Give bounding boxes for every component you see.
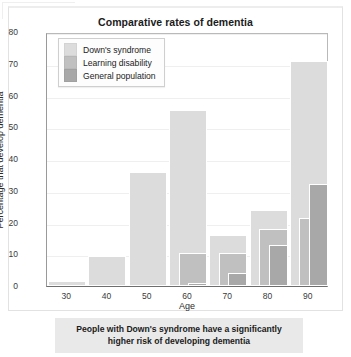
chart-caption: People with Down's syndrome have a signi… (55, 318, 303, 353)
x-axis-tick-label: 90 (288, 291, 328, 301)
y-axis-tick-label: 80 (0, 27, 18, 37)
chart-title: Comparative rates of dementia (0, 16, 351, 28)
legend-swatch-icon (64, 43, 77, 56)
legend-swatch-icon (64, 69, 77, 82)
bar (269, 245, 288, 286)
legend-item-0: Down's syndrome (64, 43, 156, 56)
bar (88, 256, 126, 286)
y-axis-tick-label: 70 (0, 59, 18, 69)
bar (309, 184, 328, 286)
x-axis-tick-label: 30 (46, 291, 86, 301)
x-axis-tick-label: 40 (86, 291, 126, 301)
legend-item-1: Learning disability (64, 56, 156, 69)
legend-label: Down's syndrome (83, 45, 151, 55)
figure-container: Comparative rates of dementia Percentage… (0, 0, 351, 357)
legend-label: Learning disability (83, 58, 152, 68)
x-axis-tick-label: 50 (127, 291, 167, 301)
y-axis-tick-label: 60 (0, 91, 18, 101)
x-axis-tick-label: 60 (167, 291, 207, 301)
bar (129, 172, 167, 286)
y-axis-tick-label: 20 (0, 218, 18, 228)
x-axis-tick-label: 80 (248, 291, 288, 301)
y-axis-tick-label: 0 (0, 281, 18, 291)
x-axis-tick-label: 70 (207, 291, 247, 301)
legend-swatch-icon (64, 56, 77, 69)
bar (188, 283, 207, 286)
chart-legend: Down's syndromeLearning disabilityGenera… (58, 38, 165, 87)
x-axis-label: Age (46, 301, 328, 311)
y-axis-tick-label: 30 (0, 186, 18, 196)
y-axis-tick-label: 50 (0, 122, 18, 132)
bar (48, 281, 86, 286)
bar (228, 273, 247, 286)
y-axis-tick-label: 40 (0, 154, 18, 164)
y-axis-tick-label: 10 (0, 249, 18, 259)
bar (179, 253, 208, 286)
legend-item-2: General population (64, 69, 156, 82)
legend-label: General population (83, 71, 156, 81)
